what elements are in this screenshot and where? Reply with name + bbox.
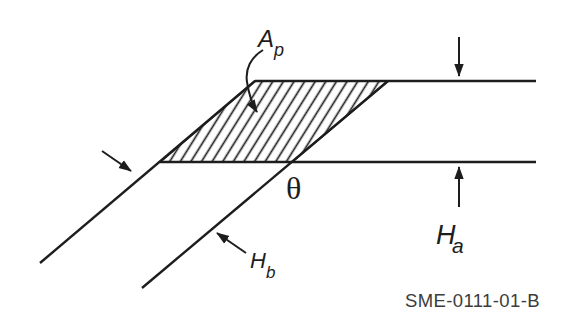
diagram: A p θ H b H a SME-0111-01-B bbox=[0, 0, 565, 316]
label-area-main: A bbox=[256, 25, 274, 52]
figure-canvas: A p θ H b H a SME-0111-01-B bbox=[0, 0, 565, 316]
hatched-area-ap bbox=[160, 81, 388, 162]
hb-arrow-left-icon bbox=[102, 151, 131, 171]
figure-id: SME-0111-01-B bbox=[405, 290, 540, 311]
label-hb-main: H bbox=[250, 248, 266, 273]
label-hb-subscript: b bbox=[266, 263, 275, 282]
label-ha-subscript: a bbox=[452, 234, 464, 257]
label-theta: θ bbox=[286, 170, 301, 206]
label-area-subscript: p bbox=[273, 40, 284, 60]
hb-arrow-right-icon bbox=[217, 233, 246, 253]
diagonal-band-upper-line bbox=[40, 81, 255, 263]
